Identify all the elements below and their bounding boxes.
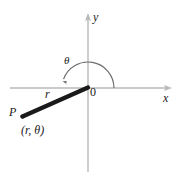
origin-label: 0: [90, 86, 96, 98]
point-p-marker: [20, 114, 24, 118]
angle-arc-arrowhead: [63, 81, 69, 86]
x-axis-label: x: [163, 92, 168, 104]
radius-r-label: r: [45, 88, 50, 100]
radius-ray: [23, 88, 89, 117]
polar-coordinate-figure: y x θ r 0 P (r, θ): [0, 0, 180, 179]
y-axis-label: y: [93, 11, 98, 23]
angle-theta-label: θ: [64, 55, 69, 66]
angle-arc: [64, 62, 114, 88]
polar-coordinates-label: (r, θ): [21, 124, 44, 136]
point-p-label: P: [9, 106, 16, 118]
